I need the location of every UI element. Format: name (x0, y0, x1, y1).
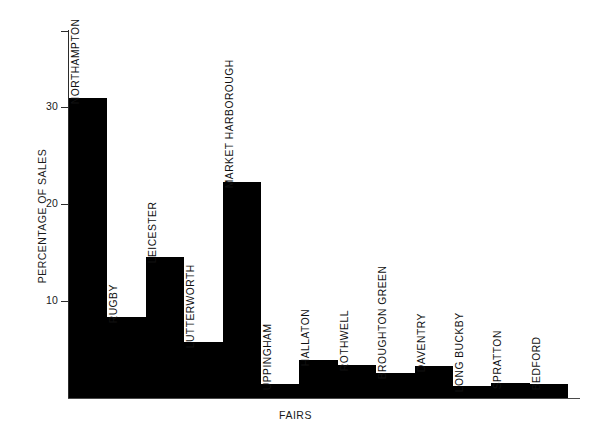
bar-category-label: LEICESTER (148, 201, 158, 263)
bar (453, 386, 491, 398)
bar-category-label: SPRATTON (493, 330, 503, 389)
plot-area: NORTHAMPTONRUGBYLEICESTERLUTTERWORTHMARK… (69, 30, 580, 398)
bar (261, 384, 299, 398)
y-tick-label-text: 30 (32, 101, 58, 112)
bar-category-label: LONG BUCKBY (455, 313, 465, 393)
bar (530, 384, 568, 398)
bar-category-label: BROUGHTON GREEN (378, 265, 388, 379)
bar (69, 98, 107, 398)
y-tick-mark (61, 107, 69, 108)
bar (338, 365, 376, 398)
bar-category-label: DAVENTRY (416, 313, 426, 372)
bar (491, 383, 529, 398)
bar (146, 257, 184, 398)
bar (299, 360, 337, 398)
bar (415, 366, 453, 398)
bar (376, 373, 414, 398)
bar-category-label: LUTTERWORTH (186, 264, 196, 348)
bar-category-label: HALLATON (301, 309, 311, 366)
bar (184, 342, 222, 398)
y-tick-label: 30 (26, 101, 58, 113)
y-tick-mark (61, 301, 69, 302)
bar-category-label: UPPINGHAM (263, 324, 273, 391)
y-tick-mark (61, 204, 69, 205)
bar (107, 317, 145, 398)
y-axis-cap-tick (61, 31, 69, 32)
y-axis-title: PERCENTAGE OF SALES (36, 126, 48, 306)
bar-category-label: BEDFORD (532, 337, 542, 391)
bar (223, 182, 261, 398)
x-axis-title: FAIRS (0, 409, 591, 421)
bar-category-label: ROTHWELL (340, 310, 350, 371)
bar-chart-figure: 302010 PERCENTAGE OF SALES NORTHAMPTONRU… (0, 0, 591, 430)
bar-category-label: NORTHAMPTON (71, 18, 81, 104)
x-axis-line (68, 398, 580, 399)
bar-category-label: MARKET HARBOROUGH (224, 59, 234, 188)
